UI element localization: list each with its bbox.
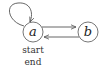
state-diagram: a b start end bbox=[0, 0, 105, 72]
start-label: start bbox=[22, 45, 44, 55]
end-label: end bbox=[25, 57, 42, 67]
node-b: b bbox=[78, 22, 98, 42]
self-loop-edge-a bbox=[9, 3, 31, 26]
node-a-label: a bbox=[29, 24, 37, 39]
node-a: a bbox=[23, 22, 43, 42]
node-b-label: b bbox=[84, 24, 92, 39]
